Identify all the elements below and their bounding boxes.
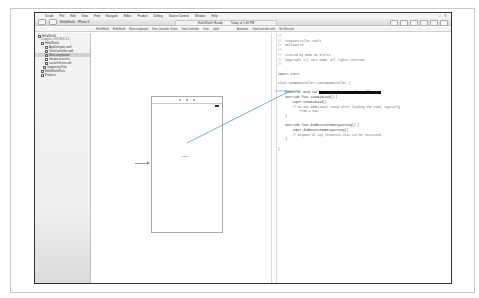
exit-icon[interactable] bbox=[193, 99, 195, 101]
code-line: // ViewController.swift bbox=[278, 40, 321, 43]
menu-help[interactable]: Help bbox=[211, 14, 217, 18]
xcode-window: Xcode File Edit View Find Navigate Edito… bbox=[34, 12, 452, 284]
nav-item-group[interactable]: Products bbox=[41, 73, 56, 77]
menu-list-icon[interactable]: ☰ bbox=[444, 14, 447, 18]
menu-source-control[interactable]: Source Control bbox=[169, 14, 189, 18]
view-controller-scene[interactable]: Label bbox=[151, 96, 223, 233]
spotlight-icon[interactable]: ⌕ bbox=[439, 14, 441, 18]
insert-outlet-tooltip: Insert Outlet or Outlet Collection bbox=[319, 91, 380, 94]
code-line: // Copyright (c) 2014 Demo. All rights r… bbox=[278, 59, 366, 62]
code-view[interactable]: // // ViewController.swift // HelloWorld… bbox=[278, 35, 400, 153]
code-line: // Dispose of any resources that can be … bbox=[278, 134, 382, 137]
assistant-jumpbar-item[interactable]: Automatic bbox=[237, 28, 249, 31]
folder-icon bbox=[41, 42, 44, 45]
version-editor-button[interactable] bbox=[410, 20, 418, 26]
editor-gutter bbox=[272, 33, 277, 283]
code-line: // bbox=[278, 49, 282, 52]
assistant-editor[interactable]: // // ViewController.swift // HelloWorld… bbox=[272, 33, 451, 283]
assistant-editor-button[interactable] bbox=[400, 20, 408, 26]
project-navigator: HelloWorld 2 targets, iOS SDK 8.1 HelloW… bbox=[35, 33, 91, 283]
initial-vc-arrow-icon bbox=[135, 163, 149, 164]
toggle-navigator-button[interactable] bbox=[420, 20, 428, 26]
code-line: from a nib. bbox=[278, 110, 319, 113]
scene-dock bbox=[152, 97, 222, 104]
vc-icon[interactable] bbox=[179, 99, 181, 101]
toggle-utilities-button[interactable] bbox=[440, 20, 448, 26]
assistant-jumpbar-item[interactable]: No Selection bbox=[279, 28, 294, 31]
code-line: // HelloWorld bbox=[278, 44, 303, 47]
menu-file[interactable]: File bbox=[60, 14, 65, 18]
code-line: override func didReceiveMemoryWarning() … bbox=[278, 124, 359, 127]
menu-find[interactable]: Find bbox=[94, 14, 100, 18]
code-line: } bbox=[278, 115, 287, 118]
storyboard-canvas[interactable]: Label bbox=[91, 33, 272, 283]
jumpbar-item[interactable]: Label bbox=[213, 28, 219, 31]
jumpbar-item[interactable]: HelloWorld bbox=[96, 28, 109, 31]
code-line: import UIKit bbox=[278, 73, 300, 76]
code-line: // Created by Demo on 8/3/14. bbox=[278, 54, 332, 57]
code-line: // bbox=[278, 35, 282, 38]
code-line: } bbox=[278, 138, 287, 141]
jumpbar-item[interactable]: View bbox=[203, 28, 209, 31]
folder-icon bbox=[41, 74, 44, 77]
code-line: override func viewDidLoad() { bbox=[278, 96, 337, 99]
stop-button[interactable] bbox=[49, 19, 57, 25]
code-line: super.didReceiveMemoryWarning() bbox=[278, 129, 348, 132]
assistant-jumpbar-item[interactable]: ViewController.swift bbox=[253, 28, 276, 31]
activity-viewer: HelloWorld: Ready Today at 1:46 PM bbox=[175, 20, 277, 26]
scheme-selector[interactable]: HelloWorld bbox=[60, 20, 75, 24]
activity-time: Today at 1:46 PM bbox=[231, 21, 254, 25]
menu-xcode[interactable]: Xcode bbox=[45, 14, 54, 18]
jumpbar-item[interactable]: HelloWorld bbox=[113, 28, 126, 31]
standard-editor-button[interactable] bbox=[390, 20, 398, 26]
menu-view[interactable]: View bbox=[82, 14, 88, 18]
menu-navigate[interactable]: Navigate bbox=[106, 14, 118, 18]
code-line-outlet: @IBOutlet weak var bbox=[278, 91, 318, 94]
toolbar: HelloWorld iPhone 6 HelloWorld: Ready To… bbox=[35, 19, 451, 26]
jumpbar-item[interactable]: View Controller Scene bbox=[152, 28, 178, 31]
code-line: super.viewDidLoad() bbox=[278, 101, 327, 104]
code-line: class ViewController: UIViewController { bbox=[278, 82, 350, 85]
battery-icon bbox=[215, 105, 219, 107]
menu-editor[interactable]: Editor bbox=[124, 14, 132, 18]
code-line: } bbox=[278, 148, 280, 151]
run-button[interactable] bbox=[38, 19, 46, 25]
jump-bar: HelloWorld HelloWorld Main.storyboard Vi… bbox=[35, 27, 451, 32]
menu-edit[interactable]: Edit bbox=[70, 14, 75, 18]
activity-status: HelloWorld: Ready bbox=[198, 21, 223, 25]
menu-product[interactable]: Product bbox=[138, 14, 148, 18]
label-element[interactable]: Label bbox=[182, 156, 188, 159]
menu-debug[interactable]: Debug bbox=[154, 14, 163, 18]
first-responder-icon[interactable] bbox=[186, 99, 188, 101]
menu-window[interactable]: Window bbox=[195, 14, 206, 18]
code-line: // bbox=[278, 63, 282, 66]
code-line: // Do any additional setup after loading… bbox=[278, 106, 400, 109]
jumpbar-item[interactable]: View Controller bbox=[182, 28, 200, 31]
destination-selector[interactable]: iPhone 6 bbox=[78, 20, 90, 24]
jumpbar-item[interactable]: Main.storyboard bbox=[129, 28, 148, 31]
toggle-debug-button[interactable] bbox=[430, 20, 438, 26]
